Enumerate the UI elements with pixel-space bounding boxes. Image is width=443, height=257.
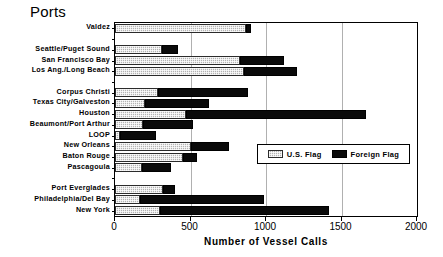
category-label: San Francisco Bay [0,56,110,64]
bar-segment-foreign-flag [145,99,209,108]
category-label: Houston [0,109,110,117]
chart-legend: U.S. Flag Foreign Flag [257,144,410,164]
legend-label-us-flag: U.S. Flag [287,150,322,159]
x-tick-label: 2000 [405,221,427,233]
bar-segment-foreign-flag [244,67,297,76]
vessel-calls-bar-chart: Ports ValdezSeattle/Puget SoundSan Franc… [0,0,443,257]
category-label: New York [0,206,110,214]
bar-segment-foreign-flag [246,24,251,33]
category-label: Port Everglades [0,184,110,192]
bar-segment-foreign-flag [240,56,284,65]
category-label: Seattle/Puget Sound [0,45,110,53]
bar-segment-foreign-flag [191,142,229,151]
bar-segment-foreign-flag [158,88,248,97]
category-label: Baton Rouge [0,152,110,160]
bar-segment-us-flag [115,120,143,129]
bar-segment-us-flag [115,153,183,162]
category-label: Valdez [0,23,110,31]
category-label: Texas City/Galveston [0,98,110,106]
legend-entry-foreign-flag: Foreign Flag [332,150,400,159]
foreign-flag-swatch [332,150,347,158]
legend-entry-us-flag: U.S. Flag [268,150,322,159]
category-label: New Orleans [0,141,110,149]
category-label: Beaumont/Port Arthur [0,120,110,128]
x-axis-title: Number of Vessel Calls [114,236,418,247]
bar-segment-us-flag [115,45,162,54]
bar-segment-foreign-flag [183,153,197,162]
category-label: Philadelphia/Del Bay [0,195,110,203]
category-label: LOOP [0,131,110,139]
bar-segment-foreign-flag [162,45,179,54]
bar-segment-us-flag [115,206,160,215]
x-tick-label: 1500 [329,221,351,233]
bar-segment-us-flag [115,163,142,172]
bar-segment-foreign-flag [163,185,176,194]
bars-layer [115,23,417,216]
bar-segment-foreign-flag [186,110,366,119]
x-tick-label: 1000 [254,221,276,233]
bar-segment-us-flag [115,142,191,151]
bar-segment-foreign-flag [142,163,171,172]
category-label: Los Ang./Long Beach [0,66,110,74]
bar-segment-foreign-flag [120,131,155,140]
category-label: Corpus Christi [0,88,110,96]
bar-segment-us-flag [115,110,186,119]
bar-segment-foreign-flag [140,195,264,204]
x-axis-tick-labels: 0500100015002000 [0,221,443,235]
y-axis-category-labels: ValdezSeattle/Puget SoundSan Francisco B… [0,22,110,217]
x-tick-label: 0 [111,221,117,233]
bar-segment-foreign-flag [143,120,193,129]
bar-segment-us-flag [115,88,158,97]
legend-label-foreign-flag: Foreign Flag [351,150,400,159]
x-tick-label: 500 [181,221,198,233]
bar-segment-us-flag [115,24,246,33]
bar-segment-us-flag [115,56,240,65]
bar-segment-us-flag [115,99,145,108]
bar-segment-us-flag [115,185,163,194]
category-label: Pascagoula [0,163,110,171]
us-flag-swatch [268,150,283,158]
chart-title: Ports [30,3,66,21]
bar-segment-foreign-flag [160,206,328,215]
bar-segment-us-flag [115,195,140,204]
bar-segment-us-flag [115,67,244,76]
